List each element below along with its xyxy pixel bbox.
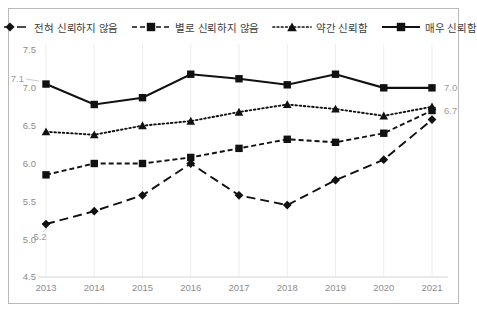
data-point-marker [42,171,49,178]
y-axis-tick-label: 4.5 [23,271,36,282]
data-point-marker [284,81,291,88]
data-point-marker [42,80,49,87]
data-point-marker [90,207,99,216]
x-axis-tick-label: 2019 [325,282,346,293]
x-axis-tick-label: 2013 [35,282,56,293]
data-point-marker [139,160,146,167]
x-axis-tick-label: 2021 [421,282,442,293]
x-axis-tick-label: 2015 [132,282,153,293]
y-axis-tick-label: 5.5 [23,196,36,207]
data-point-marker [187,71,194,78]
data-label: 7.0 [444,82,457,93]
x-axis-tick-label: 2016 [180,282,201,293]
data-label: 6.7 [444,105,457,116]
y-axis-tick-label: 6.5 [23,120,36,131]
data-point-marker [331,176,340,185]
x-axis-tick-label: 2018 [277,282,298,293]
data-point-marker [42,127,51,135]
data-point-marker [428,115,437,124]
x-axis-tick-label: 2017 [228,282,249,293]
data-point-marker [235,145,242,152]
data-point-marker [235,75,242,82]
data-point-marker [187,154,194,161]
data-point-marker [91,101,98,108]
data-point-marker [332,71,339,78]
data-label: 7.1 [11,73,24,84]
y-axis-tick-label: 7.5 [23,44,36,55]
data-point-marker [283,201,292,210]
data-point-marker [332,139,339,146]
data-point-marker [380,130,387,137]
data-point-marker [380,84,387,91]
y-axis-tick-label: 7.0 [23,82,36,93]
x-axis-tick-label: 2020 [373,282,394,293]
x-axis-ticks: 201320142015201620172018201920202021 [35,282,442,293]
data-point-marker [91,160,98,167]
data-point-marker [284,136,291,143]
y-axis-tick-label: 6.0 [23,158,36,169]
data-point-marker [139,94,146,101]
annotation-leader-line [26,79,39,81]
data-point-marker [42,220,51,229]
data-point-marker [379,155,388,164]
x-axis-tick-label: 2014 [84,282,105,293]
data-label: 5.2 [33,231,46,242]
data-point-marker [428,84,435,91]
